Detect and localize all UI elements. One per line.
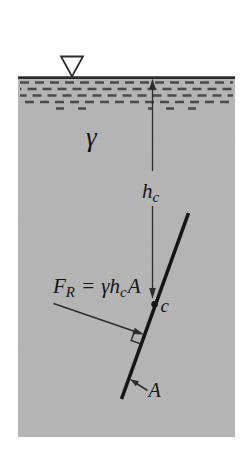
water-surface-icon	[61, 57, 83, 77]
force-symbol: F	[52, 274, 66, 298]
figure-canvas: γ hc c FR=γhcA A	[0, 0, 248, 473]
force-symbol-sub: R	[65, 284, 75, 300]
centroid-point	[151, 301, 158, 308]
force-expression-sub: c	[120, 284, 127, 300]
depth-label-base: h	[142, 179, 153, 203]
centroid-label: c	[161, 295, 170, 316]
figure-hydrostatic-force-diagram: γ hc c FR=γhcA A	[0, 0, 248, 473]
force-expression: γh	[101, 274, 120, 298]
area-label: A	[147, 379, 162, 401]
specific-weight-label: γ	[86, 122, 98, 152]
equals-sign: =	[81, 274, 95, 298]
force-expression-area: A	[126, 274, 141, 298]
depth-label-sub: c	[153, 189, 160, 205]
